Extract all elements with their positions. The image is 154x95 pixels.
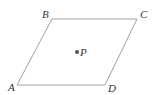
vertex-label-c: C bbox=[140, 8, 148, 20]
point-label-p: P bbox=[79, 46, 87, 58]
vertex-label-a: A bbox=[7, 81, 15, 93]
point-p-dot bbox=[75, 50, 79, 54]
parallelogram-diagram: A B C D P bbox=[0, 0, 154, 95]
vertex-label-b: B bbox=[42, 8, 49, 20]
vertex-label-d: D bbox=[107, 82, 116, 94]
